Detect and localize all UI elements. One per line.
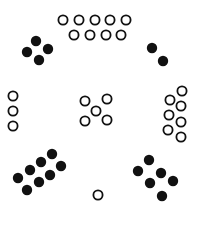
- filled-dot: [45, 170, 55, 180]
- filled-dot: [43, 44, 53, 54]
- dot-pattern-diagram: [0, 0, 199, 240]
- filled-dot: [34, 55, 44, 65]
- filled-dot: [13, 173, 23, 183]
- filled-dot: [31, 36, 41, 46]
- filled-dot: [47, 149, 57, 159]
- filled-dot: [168, 176, 178, 186]
- filled-dot: [36, 157, 46, 167]
- filled-dot: [25, 165, 35, 175]
- filled-dot: [156, 168, 166, 178]
- filled-dot: [157, 191, 167, 201]
- filled-dot: [34, 177, 44, 187]
- filled-dot: [158, 56, 168, 66]
- filled-dot: [22, 185, 32, 195]
- filled-dot: [147, 43, 157, 53]
- filled-dot: [144, 155, 154, 165]
- filled-dot: [133, 166, 143, 176]
- filled-dot: [145, 178, 155, 188]
- filled-dot: [22, 47, 32, 57]
- filled-dot: [56, 161, 66, 171]
